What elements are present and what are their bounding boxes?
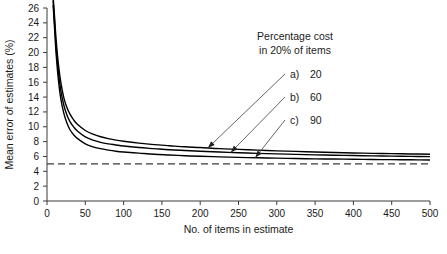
y-tick-label-10: 10 [28,121,40,132]
x-tick-label-50: 50 [80,208,92,219]
legend-entry-value-1: 60 [310,91,322,103]
x-axis-title: No. of items in estimate [184,223,294,235]
legend-title-line1: Percentage cost [257,30,333,42]
legend-entry-label-0: a) [290,68,299,80]
y-tick-label-14: 14 [28,92,40,103]
x-tick-label-450: 450 [383,208,400,219]
legend-entry-label-1: b) [290,91,299,103]
legend-title-line2: in 20% of items [259,44,331,56]
chart-figure: 050100150200250300350400450500No. of ite… [0,0,447,254]
y-tick-label-22: 22 [28,32,40,43]
y-tick-label-18: 18 [28,62,40,73]
y-tick-label-24: 24 [28,17,40,28]
x-tick-label-250: 250 [230,208,247,219]
x-tick-label-300: 300 [268,208,285,219]
x-tick-label-100: 100 [115,208,132,219]
legend-entry-label-2: c) [290,114,299,126]
y-tick-label-0: 0 [33,196,39,207]
arrow-c-line [255,120,285,158]
x-tick-label-0: 0 [44,208,50,219]
y-tick-label-20: 20 [28,47,40,58]
y-tick-label-12: 12 [28,106,40,117]
y-tick-label-4: 4 [33,166,39,177]
curve-series-1 [53,1,430,157]
y-tick-label-16: 16 [28,77,40,88]
arrow-b-line [231,97,285,152]
y-tick-label-6: 6 [33,151,39,162]
x-tick-label-400: 400 [345,208,362,219]
legend-entry-value-2: 90 [310,114,322,126]
y-axis-title: Mean error of estimates (%) [3,39,15,169]
x-tick-label-150: 150 [154,208,171,219]
y-tick-label-2: 2 [33,181,39,192]
legend-entry-value-0: 20 [310,68,322,80]
curve-series-2 [53,5,430,160]
x-tick-label-350: 350 [307,208,324,219]
x-tick-label-500: 500 [422,208,439,219]
y-tick-label-8: 8 [33,136,39,147]
x-tick-label-200: 200 [192,208,209,219]
curve-series-0 [53,0,430,154]
y-tick-label-26: 26 [28,3,40,14]
arrow-c-head [255,150,261,157]
